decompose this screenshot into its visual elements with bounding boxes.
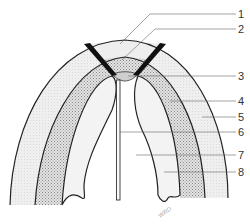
central-stalk (117, 80, 121, 200)
label-8: 8 (238, 166, 244, 178)
label-7: 7 (238, 149, 244, 161)
label-6: 6 (238, 126, 244, 138)
label-4: 4 (238, 95, 244, 107)
cross-section-diagram: 1 2 3 4 5 6 7 8 WRD (0, 0, 250, 224)
artist-signature: WRD (157, 205, 173, 219)
label-5: 5 (238, 111, 244, 123)
label-3: 3 (238, 70, 244, 82)
label-1: 1 (238, 8, 244, 20)
label-2: 2 (238, 23, 244, 35)
